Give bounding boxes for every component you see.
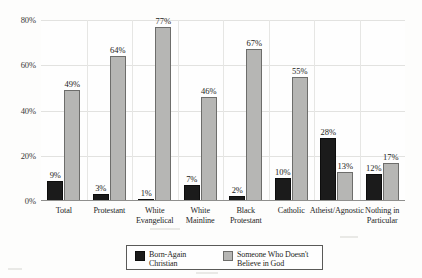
bar: [201, 97, 217, 201]
label-line: Believe in God: [237, 259, 308, 268]
bar-value-label: 28%: [314, 127, 342, 137]
bar: [246, 49, 262, 201]
label-line: Born-Again: [149, 250, 186, 259]
bar-group: 12%17%: [360, 20, 406, 201]
bar: [383, 163, 399, 201]
scan-artifact: [8, 268, 22, 270]
legend-swatch: [223, 251, 233, 261]
legend-label: Someone Who Doesn'tBelieve in God: [237, 250, 308, 268]
legend-swatch: [135, 251, 145, 261]
bar-value-label: 55%: [286, 66, 314, 76]
bar-chart: 0%20%40%60%80% 9%49%3%64%1%77%7%46%2%67%…: [0, 0, 422, 278]
y-axis-tick-label: 40%: [2, 106, 36, 116]
bar-group: 3%64%: [87, 20, 133, 201]
bar-value-label: 67%: [240, 38, 268, 48]
bar: [337, 172, 353, 201]
y-axis-tick-label: 20%: [2, 151, 36, 161]
legend-item[interactable]: Born-AgainChristian: [135, 250, 186, 268]
bar-group: 7%46%: [178, 20, 224, 201]
bar-group: 2%67%: [223, 20, 269, 201]
scan-artifact: [196, 272, 218, 274]
bar-group: 28%13%: [314, 20, 360, 201]
legend-item[interactable]: Someone Who Doesn'tBelieve in God: [223, 250, 308, 268]
bar: [184, 185, 200, 201]
bar-group: 1%77%: [132, 20, 178, 201]
bar: [110, 56, 126, 201]
bar-value-label: 64%: [104, 45, 132, 55]
label-line: Protestant: [217, 216, 275, 226]
bar: [47, 181, 63, 201]
scan-artifact: [340, 236, 358, 238]
label-line: Nothing in: [354, 206, 412, 216]
bar-value-label: 13%: [331, 161, 359, 171]
chart-legend: Born-AgainChristianSomeone Who Doesn'tBe…: [126, 245, 323, 270]
bar-value-label: 46%: [195, 86, 223, 96]
bar: [155, 27, 171, 201]
y-axis-tick-label: 80%: [2, 15, 36, 25]
x-axis-category-label: Nothing inParticular: [354, 206, 412, 225]
label-line: Someone Who Doesn't: [237, 250, 308, 259]
y-axis-tick-label: 0%: [2, 196, 36, 206]
label-line: Particular: [354, 216, 412, 226]
bar: [292, 77, 308, 201]
y-axis-tick-label: 60%: [2, 60, 36, 70]
plot-area: 9%49%3%64%1%77%7%46%2%67%10%55%28%13%12%…: [41, 20, 405, 201]
bar-value-label: 49%: [58, 79, 86, 89]
label-line: Christian: [149, 259, 186, 268]
bar-group: 10%55%: [269, 20, 315, 201]
bar: [275, 178, 291, 201]
legend-label: Born-AgainChristian: [149, 250, 186, 268]
scan-artifact: [150, 228, 180, 230]
bar: [366, 174, 382, 201]
bar-value-label: 17%: [377, 152, 405, 162]
bar-value-label: 77%: [149, 16, 177, 26]
bar-group: 9%49%: [41, 20, 87, 201]
bar: [64, 90, 80, 201]
x-axis-line: [41, 200, 405, 201]
